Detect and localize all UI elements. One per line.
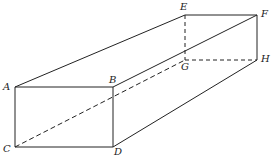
label-E: E: [180, 2, 187, 12]
label-A: A: [3, 82, 10, 92]
edge-AE: [15, 15, 185, 87]
label-G: G: [181, 62, 189, 72]
edge-DH: [113, 60, 257, 147]
label-D: D: [114, 147, 122, 157]
label-B: B: [109, 75, 116, 85]
prism-drawing: [0, 0, 274, 161]
edge-CG: [15, 60, 185, 147]
label-H: H: [261, 54, 270, 64]
label-F: F: [261, 9, 268, 19]
box-diagram: A B C D E F G H: [0, 0, 274, 161]
label-C: C: [3, 144, 11, 154]
